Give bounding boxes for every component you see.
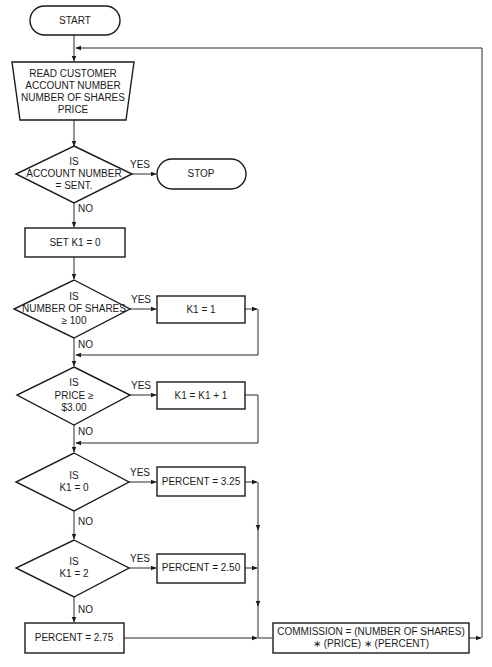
yes-label: YES bbox=[130, 159, 150, 170]
connectors bbox=[74, 35, 482, 638]
decision-price-line-2: PRICE ≥ bbox=[55, 390, 94, 401]
decision-number-of-shares: IS NUMBER OF SHARES ≥ 100 YES NO bbox=[14, 280, 151, 350]
decision-k1-2-line-2: K1 = 2 bbox=[59, 568, 89, 579]
decision-account-line-3: = SENT. bbox=[56, 180, 93, 191]
start-terminal: START bbox=[30, 6, 120, 35]
decision-k1-0-line-2: K1 = 0 bbox=[59, 482, 89, 493]
read-line-3: NUMBER OF SHARES bbox=[21, 92, 125, 103]
start-label: START bbox=[59, 15, 91, 26]
decision-shares-line-2: NUMBER OF SHARES bbox=[22, 303, 126, 314]
decision-k1-equals-2: IS K1 = 2 YES NO bbox=[16, 540, 150, 615]
no-label: NO bbox=[78, 426, 93, 437]
percent-275-label: PERCENT = 2.75 bbox=[35, 632, 114, 643]
k1-increment-label: K1 = K1 + 1 bbox=[175, 390, 228, 401]
decision-account-line-1: IS bbox=[69, 156, 79, 167]
yes-label: YES bbox=[130, 467, 150, 478]
percent-325-label: PERCENT = 3.25 bbox=[162, 476, 241, 487]
commission-process: COMMISSION = (NUMBER OF SHARES) ∗ (PRICE… bbox=[273, 623, 469, 653]
decision-price-line-3: $3.00 bbox=[61, 402, 86, 413]
stop-label: STOP bbox=[187, 168, 214, 179]
percent-275-process: PERCENT = 2.75 bbox=[25, 623, 124, 653]
stop-terminal: STOP bbox=[157, 159, 246, 189]
k1-equals-1-label: K1 = 1 bbox=[186, 304, 216, 315]
read-line-1: READ CUSTOMER bbox=[29, 68, 117, 79]
decision-k1-2-line-1: IS bbox=[69, 556, 79, 567]
decision-shares-line-3: ≥ 100 bbox=[62, 315, 87, 326]
no-label: NO bbox=[78, 604, 93, 615]
commission-line-2: ∗ (PRICE) ∗ (PERCENT) bbox=[313, 638, 429, 649]
percent-325-process: PERCENT = 3.25 bbox=[157, 467, 245, 496]
set-k1-label: SET K1 = 0 bbox=[49, 237, 101, 248]
flowchart-canvas: START READ CUSTOMER ACCOUNT NUMBER NUMBE… bbox=[0, 0, 492, 667]
no-label: NO bbox=[78, 516, 93, 527]
decision-account-number: IS ACCOUNT NUMBER = SENT. YES NO bbox=[16, 146, 150, 214]
k1-increment-process: K1 = K1 + 1 bbox=[157, 382, 245, 409]
decision-price: IS PRICE ≥ $3.00 YES NO bbox=[17, 367, 151, 437]
yes-label: YES bbox=[130, 553, 150, 564]
yes-label: YES bbox=[131, 380, 151, 391]
decision-account-line-2: ACCOUNT NUMBER bbox=[26, 168, 121, 179]
no-label: NO bbox=[78, 339, 93, 350]
read-line-4: PRICE bbox=[58, 104, 89, 115]
k1-equals-1-process: K1 = 1 bbox=[157, 296, 245, 323]
edge-loop-return bbox=[76, 48, 482, 638]
decision-k1-equals-0: IS K1 = 0 YES NO bbox=[16, 453, 150, 527]
yes-label: YES bbox=[131, 294, 151, 305]
read-input-node: READ CUSTOMER ACCOUNT NUMBER NUMBER OF S… bbox=[12, 62, 134, 120]
decision-shares-line-1: IS bbox=[69, 291, 79, 302]
percent-250-process: PERCENT = 2.50 bbox=[157, 554, 245, 583]
read-line-2: ACCOUNT NUMBER bbox=[25, 80, 120, 91]
decision-k1-0-line-1: IS bbox=[69, 470, 79, 481]
percent-250-label: PERCENT = 2.50 bbox=[162, 562, 241, 573]
commission-line-1: COMMISSION = (NUMBER OF SHARES) bbox=[277, 626, 465, 637]
decision-price-line-1: IS bbox=[69, 377, 79, 388]
no-label: NO bbox=[78, 203, 93, 214]
set-k1-process: SET K1 = 0 bbox=[25, 228, 125, 257]
